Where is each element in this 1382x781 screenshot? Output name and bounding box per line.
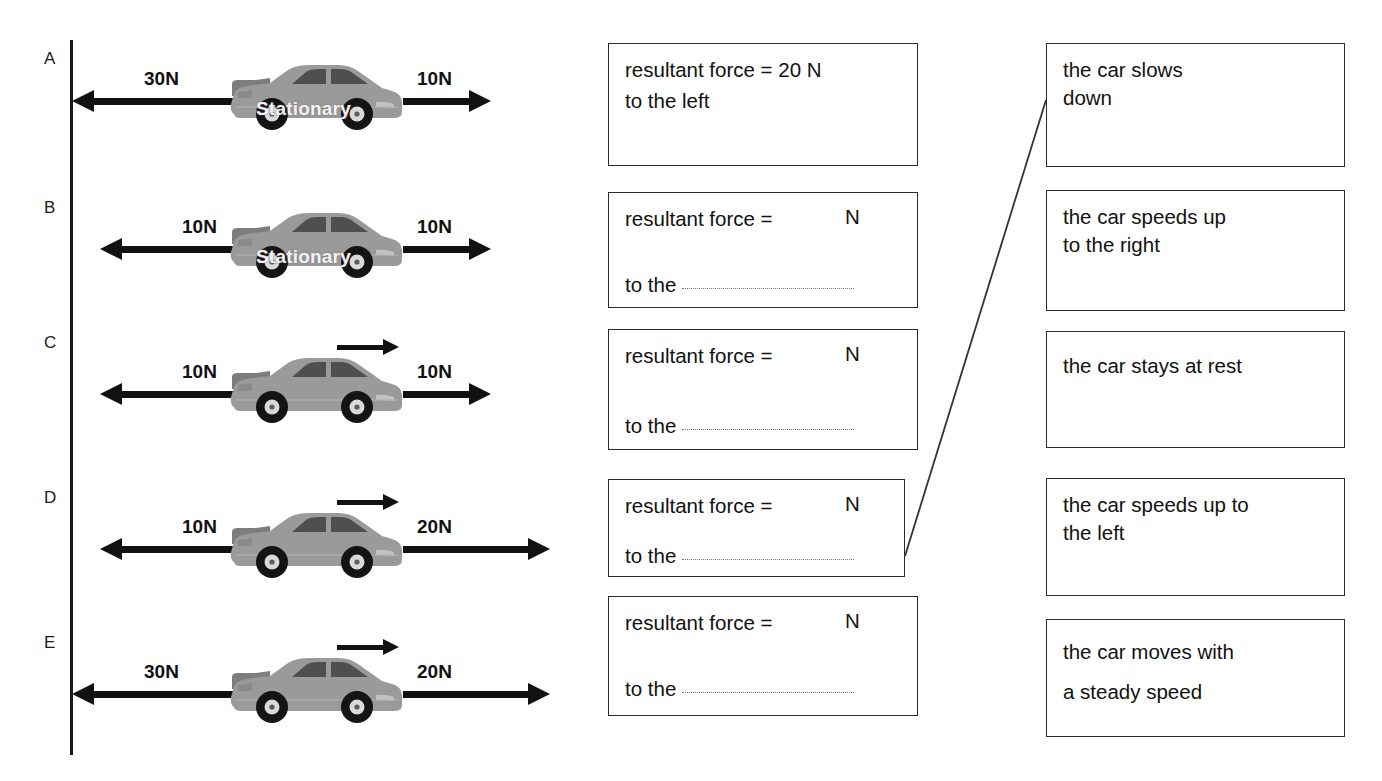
answer-line2-text-a: to the left	[625, 87, 709, 114]
outcome-box-5[interactable]: the car moves with a steady speed	[1046, 619, 1345, 737]
car-illustration-d	[226, 502, 406, 594]
arrow-shaft	[120, 546, 242, 553]
outcome-line1-5: the car moves with	[1063, 638, 1334, 665]
outcome-line1-4: the car speeds up to	[1063, 491, 1334, 518]
answer-line2-b[interactable]: to the	[625, 271, 854, 298]
outcome-box-2[interactable]: the car speeds up to the right	[1046, 190, 1345, 311]
answer-line2-text-b: to the	[625, 271, 676, 298]
answer-line2-c[interactable]: to the	[625, 412, 854, 439]
answer-unit-b: N	[845, 205, 860, 229]
arrow-shaft	[120, 391, 242, 398]
right-force-label-d: 20N	[417, 516, 452, 538]
right-force-arrow-c	[403, 388, 491, 401]
outcome-line2-1: down	[1063, 84, 1334, 111]
answer-box-e[interactable]: resultant force = N to the	[608, 596, 918, 716]
row-label-c: C	[44, 334, 56, 351]
answer-direction-blank-c[interactable]	[682, 428, 854, 430]
car-illustration-a: Stationary	[226, 54, 406, 146]
row-label-a: A	[44, 50, 55, 67]
right-force-arrow-b	[403, 243, 491, 256]
answer-box-c[interactable]: resultant force = N to the	[608, 329, 918, 450]
answer-unit-c: N	[845, 342, 860, 366]
car-illustration-c	[226, 347, 406, 439]
arrowhead	[469, 238, 491, 260]
row-label-b: B	[44, 199, 55, 216]
outcome-box-3[interactable]: the car stays at rest	[1046, 331, 1345, 448]
right-force-arrow-d	[403, 543, 550, 556]
arrow-shaft	[403, 98, 471, 105]
left-force-label-a: 30N	[144, 68, 179, 90]
answer-box-d[interactable]: resultant force = N to the	[608, 479, 905, 577]
worksheet-canvas: A 30N 10N Stationary B 10N 10N	[0, 0, 1382, 781]
answer-box-b[interactable]: resultant force = N to the	[608, 192, 918, 308]
answer-line1-c: resultant force =	[625, 342, 907, 369]
arrowhead	[100, 238, 122, 260]
left-force-label-e: 30N	[144, 661, 179, 683]
right-force-arrow-a	[403, 95, 491, 108]
answer-direction-blank-e[interactable]	[682, 691, 854, 693]
arrow-shaft	[403, 246, 471, 253]
car-illustration-b: Stationary	[226, 202, 406, 294]
outcome-box-1[interactable]: the car slows down	[1046, 43, 1345, 167]
answer-line2-d[interactable]: to the	[625, 542, 854, 569]
arrow-shaft	[403, 691, 530, 698]
outcome-line2-2: to the right	[1063, 231, 1334, 258]
arrowhead	[528, 538, 550, 560]
answer-direction-blank-d[interactable]	[682, 558, 854, 560]
outcome-line1-3: the car stays at rest	[1063, 352, 1334, 379]
answer-line2-text-e: to the	[625, 675, 676, 702]
answer-line1-a: resultant force = 20 N	[625, 56, 907, 83]
arrow-shaft	[403, 391, 471, 398]
answer-line2-e[interactable]: to the	[625, 675, 854, 702]
answer-line1-b: resultant force =	[625, 205, 907, 232]
left-force-arrow-a	[72, 95, 242, 108]
right-force-label-c: 10N	[417, 361, 452, 383]
answer-unit-d: N	[845, 492, 860, 516]
left-force-arrow-c	[100, 388, 242, 401]
arrowhead	[528, 683, 550, 705]
arrowhead	[469, 383, 491, 405]
arrowhead	[72, 683, 94, 705]
wall-line	[70, 40, 73, 755]
right-force-label-a: 10N	[417, 68, 452, 90]
answer-unit-e: N	[845, 609, 860, 633]
answer-line2-a: to the left	[625, 87, 709, 114]
arrow-shaft	[92, 691, 242, 698]
arrow-shaft	[92, 98, 242, 105]
outcome-box-4[interactable]: the car speeds up to the left	[1046, 478, 1345, 596]
left-force-label-c: 10N	[182, 361, 217, 383]
arrowhead	[72, 90, 94, 112]
right-force-arrow-e	[403, 688, 550, 701]
right-force-label-b: 10N	[417, 216, 452, 238]
answer-line2-text-c: to the	[625, 412, 676, 439]
outcome-line1-1: the car slows	[1063, 56, 1334, 83]
left-force-arrow-d	[100, 543, 242, 556]
answer-line2-text-d: to the	[625, 542, 676, 569]
outcome-line2-4: the left	[1063, 519, 1334, 546]
outcome-line2-5: a steady speed	[1063, 678, 1334, 705]
arrowhead	[100, 538, 122, 560]
left-force-arrow-e	[72, 688, 242, 701]
arrow-shaft	[120, 246, 242, 253]
answer-line1-e: resultant force =	[625, 609, 907, 636]
row-label-d: D	[44, 489, 56, 506]
car-illustration-e	[226, 647, 406, 739]
left-force-label-b: 10N	[182, 216, 217, 238]
answer-box-a[interactable]: resultant force = 20 N to the left	[608, 43, 918, 166]
arrowhead	[469, 90, 491, 112]
left-force-label-d: 10N	[182, 516, 217, 538]
row-label-e: E	[44, 634, 55, 651]
arrowhead	[100, 383, 122, 405]
left-force-arrow-b	[100, 243, 242, 256]
right-force-label-e: 20N	[417, 661, 452, 683]
arrow-shaft	[403, 546, 530, 553]
answer-direction-blank-b[interactable]	[682, 287, 854, 289]
outcome-line1-2: the car speeds up	[1063, 203, 1334, 230]
